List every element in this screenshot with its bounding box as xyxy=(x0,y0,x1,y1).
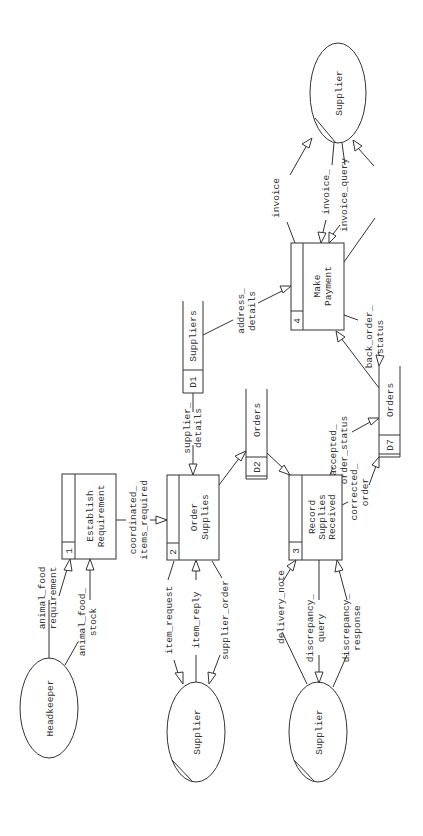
flow-d2-to-record[interactable] xyxy=(267,453,290,475)
flow-label-line2: details xyxy=(193,408,204,448)
flow-address-details[interactable]: address_ details xyxy=(203,286,291,335)
flow-label-line1: corrected_ xyxy=(349,463,360,520)
entity-label: Supplier xyxy=(314,709,325,755)
flow-label-line2: items_required xyxy=(139,480,150,560)
flow-label-line1: supplier_order xyxy=(220,580,231,660)
flow-label-line1: back_order_ xyxy=(364,305,375,368)
process-label-line1: Establish xyxy=(85,490,96,541)
datastore-label: Orders xyxy=(385,383,396,417)
datastore-label: Suppliers xyxy=(188,310,199,361)
flow-label-line1: item_request xyxy=(164,586,175,654)
datastore-d2-orders[interactable]: D2 Orders xyxy=(246,389,267,479)
flow-label-line2: details xyxy=(247,291,258,331)
flow-discrepancy-response[interactable]: discrepancy_ response xyxy=(333,560,363,687)
datastore-id: D2 xyxy=(252,461,263,473)
flow-label-line2: query xyxy=(316,613,327,642)
process-label-line1: Make xyxy=(312,274,323,297)
datastore-id: D7 xyxy=(385,439,396,450)
process-label-line2: Payment xyxy=(323,266,334,306)
flow-label-line1: discrepancy_ xyxy=(305,594,316,663)
flow-label-line2: response xyxy=(352,605,363,651)
flow-label-line1: animal_food_ xyxy=(77,588,88,657)
flow-order-to-d2[interactable] xyxy=(219,451,246,485)
flow-payment-details[interactable]: invoice xyxy=(271,138,312,243)
flow-supplier-order[interactable]: supplier_order xyxy=(208,561,231,684)
entity-label: Headkeeper xyxy=(45,679,56,736)
entity-supplier-payment[interactable]: Supplier xyxy=(310,43,366,143)
flow-animal-food-requirement[interactable]: animal_food requirement xyxy=(37,559,72,658)
entity-headkeeper[interactable]: Headkeeper xyxy=(20,658,78,758)
flow-label-line2: stock xyxy=(88,607,99,636)
flow-coordinated-items-required[interactable]: coordinated_ items_required xyxy=(116,480,167,560)
process-4-make-payment[interactable]: 4 Make Payment xyxy=(291,243,344,330)
flow-label-line1: coordinated_ xyxy=(128,486,139,555)
process-label-line2: Supplies xyxy=(200,494,211,540)
process-number: 2 xyxy=(168,549,179,555)
flow-item-reply[interactable]: item_reply xyxy=(191,560,202,682)
flow-label-line1: address_ xyxy=(236,288,247,334)
flow-label-line1: item_reply xyxy=(191,591,202,648)
flow-label-line1: accepted_ xyxy=(328,424,339,476)
datastore-label: Orders xyxy=(252,403,263,437)
process-1-establish-requirement[interactable]: 1 Establish Requirement xyxy=(62,474,116,559)
datastore-d7-orders[interactable]: D7 Orders xyxy=(379,366,400,457)
flow-label-line1: discrepancy_ xyxy=(341,594,352,663)
flow-label-line1: invoice_ xyxy=(321,169,332,215)
flow-back-order-status[interactable]: back_order_ status xyxy=(344,305,386,368)
flow-animal-food-stock[interactable]: animal_food_ stock xyxy=(65,559,99,665)
process-3-record-supplies-received[interactable]: 3 Record Supplies Received xyxy=(289,475,342,560)
process-number: 1 xyxy=(64,548,75,554)
entity-supplier-order[interactable]: Supplier xyxy=(167,682,225,782)
flow-item-request[interactable]: item_request xyxy=(164,561,183,684)
flow-invoice[interactable]: invoice_ xyxy=(318,143,334,243)
flow-label-line2: status xyxy=(375,320,386,354)
process-number: 3 xyxy=(291,548,302,554)
flow-label-line2: requirement xyxy=(48,567,59,630)
datastore-d1-suppliers[interactable]: D1 Suppliers xyxy=(183,301,203,393)
dfd-diagram: Headkeeper Supplier Supplier Supplier 1 … xyxy=(0,0,423,836)
process-label-line2: Requirement xyxy=(96,485,107,548)
flow-delivery-note[interactable]: delivery_note xyxy=(276,560,307,684)
flow-label-line1: animal_food xyxy=(37,567,48,630)
datastore-id: D1 xyxy=(188,376,199,388)
flow-label-line1: invoice xyxy=(271,178,282,218)
flow-label-line1: delivery_note xyxy=(276,570,287,644)
process-label-line3: Received xyxy=(327,494,338,540)
flow-supplier-details[interactable]: supplier_ details xyxy=(182,393,204,475)
flow-label-line1: invoice_query xyxy=(339,158,350,232)
flow-label-line1: supplier_ xyxy=(182,402,193,454)
process-2-order-supplies[interactable]: 2 Order Supplies xyxy=(167,475,219,560)
flow-discrepancy-query[interactable]: discrepancy_ query xyxy=(305,560,327,683)
process-label-line1: Order xyxy=(189,503,200,532)
entity-label: Supplier xyxy=(192,709,203,755)
flow-label-line2: order xyxy=(360,478,371,507)
entity-label: Supplier xyxy=(334,70,345,116)
entity-supplier-delivery[interactable]: Supplier xyxy=(289,682,347,782)
dfd-canvas: Headkeeper Supplier Supplier Supplier 1 … xyxy=(0,0,423,836)
process-number: 4 xyxy=(292,318,303,324)
